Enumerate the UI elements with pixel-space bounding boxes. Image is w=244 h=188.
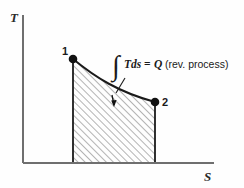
equals-sign: = — [144, 58, 151, 70]
heat-symbol: Q — [154, 58, 162, 70]
ts-diagram-svg: T S 1 2 ∫ Tds = Q (rev. process) — [0, 0, 244, 188]
ts-diagram-figure: T S 1 2 ∫ Tds = Q (rev. process) — [0, 0, 244, 188]
x-axis-label: S — [204, 169, 211, 184]
state-2-point — [151, 98, 160, 107]
integrand-label: Tds — [124, 58, 142, 70]
integral-annotation: ∫ Tds = Q (rev. process) — [110, 50, 228, 83]
state-2-label: 2 — [162, 96, 168, 108]
integral-symbol: ∫ — [110, 50, 122, 83]
state-1-label: 1 — [62, 45, 68, 57]
state-1-point — [69, 55, 78, 64]
process-note: (rev. process) — [165, 58, 228, 70]
y-axis-label: T — [10, 10, 19, 25]
